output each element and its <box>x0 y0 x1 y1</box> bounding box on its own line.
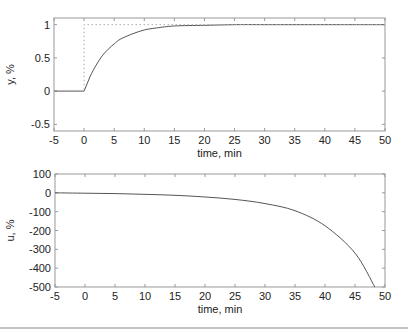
x-tick-label: 5 <box>111 134 117 146</box>
y-tick-label: 100 <box>33 168 51 180</box>
x-tick-label: -5 <box>49 134 59 146</box>
x-tick-label: 45 <box>349 134 361 146</box>
x-tick-label: -5 <box>50 290 60 302</box>
x-tick-label: 25 <box>229 290 241 302</box>
x-tick-label: 0 <box>81 134 87 146</box>
x-tick-label: 20 <box>198 134 210 146</box>
x-tick-label: 10 <box>138 134 150 146</box>
bottom-series-line <box>55 193 375 287</box>
top-axes-frame <box>54 18 385 131</box>
y-tick-label: 0 <box>44 85 50 97</box>
figure: -505101520253035404550-0.500.51time, min… <box>0 0 408 332</box>
x-tick-label: 10 <box>139 290 151 302</box>
y-tick-label: 0.5 <box>35 52 50 64</box>
x-tick-label: 25 <box>228 134 240 146</box>
setpoint-line <box>54 25 385 91</box>
y-tick-label: 0 <box>45 187 51 199</box>
x-tick-label: 35 <box>289 290 301 302</box>
y-axis-label: u, % <box>4 219 16 241</box>
bottom-axes-frame <box>55 174 385 287</box>
x-tick-label: 15 <box>168 134 180 146</box>
x-tick-label: 30 <box>259 290 271 302</box>
x-tick-label: 5 <box>112 290 118 302</box>
y-tick-label: -100 <box>29 206 51 218</box>
x-tick-label: 20 <box>199 290 211 302</box>
bottom-plot-u: -505101520253035404550-500-400-300-200-1… <box>4 168 391 315</box>
x-tick-label: 40 <box>319 290 331 302</box>
y-tick-label: -500 <box>29 281 51 293</box>
y-tick-label: 1 <box>44 19 50 31</box>
x-tick-label: 40 <box>319 134 331 146</box>
x-tick-label: 50 <box>379 290 391 302</box>
x-tick-label: 45 <box>349 290 361 302</box>
y-tick-label: -200 <box>29 225 51 237</box>
y-axis-label: y, % <box>4 64 16 85</box>
y-tick-label: -400 <box>29 262 51 274</box>
x-tick-label: 35 <box>289 134 301 146</box>
top-series-line <box>54 25 385 92</box>
x-tick-label: 30 <box>259 134 271 146</box>
y-tick-label: -300 <box>29 243 51 255</box>
x-tick-label: 50 <box>379 134 391 146</box>
top-plot-y: -505101520253035404550-0.500.51time, min… <box>4 18 391 159</box>
y-tick-label: -0.5 <box>31 118 50 130</box>
x-axis-label: time, min <box>198 303 243 315</box>
x-tick-label: 15 <box>169 290 181 302</box>
x-axis-label: time, min <box>197 147 242 159</box>
x-tick-label: 0 <box>82 290 88 302</box>
